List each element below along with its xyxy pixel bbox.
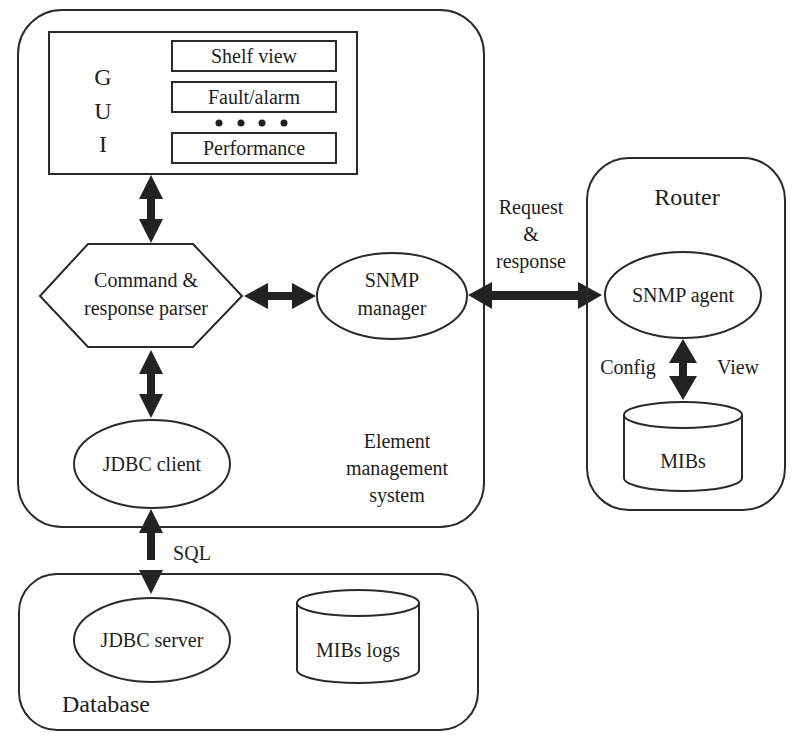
jdbc-server-label: JDBC server <box>101 629 204 651</box>
sql-label: SQL <box>173 542 211 564</box>
parser-line2: response parser <box>84 297 208 320</box>
gui-letter-g: G <box>94 64 111 90</box>
gui-letter-u: U <box>94 98 111 124</box>
mibs-logs-label: MIBs logs <box>316 639 400 662</box>
double-arrow-agent-mibs-icon <box>669 339 697 400</box>
gui-letter-i: I <box>99 131 107 157</box>
jdbc-client: JDBC client <box>74 420 230 508</box>
jdbc-server: JDBC server <box>74 598 230 682</box>
gui-item-label: Performance <box>203 137 305 159</box>
gui-item-performance[interactable]: Performance <box>172 133 336 163</box>
mibs-logs-database-icon: MIBs logs <box>297 590 419 683</box>
ems-label-line3: system <box>369 484 425 507</box>
ems-label-line1: Element <box>364 430 431 452</box>
database-title: Database <box>62 691 150 717</box>
double-arrow-parser-manager-icon <box>244 283 316 309</box>
router-title: Router <box>654 184 719 210</box>
ems-architecture-diagram: G U I Shelf view Fault/alarm Performance… <box>0 0 798 749</box>
gui-item-label: Fault/alarm <box>208 86 301 108</box>
parser-line1: Command & <box>94 269 198 291</box>
request-response-line2: & <box>523 223 539 245</box>
config-label: Config <box>600 356 656 379</box>
double-arrow-parser-jdbc-icon <box>139 350 163 418</box>
gui-more-dots <box>216 120 288 127</box>
gui-item-fault-alarm[interactable]: Fault/alarm <box>172 82 336 112</box>
request-response-line3: response <box>496 250 566 273</box>
gui-item-label: Shelf view <box>211 45 298 67</box>
mibs-database-icon: MIBs <box>624 402 742 491</box>
ems-label-line2: management <box>346 457 449 480</box>
double-arrow-gui-parser-icon <box>139 175 163 243</box>
snmp-manager-line1: SNMP <box>365 269 419 291</box>
double-arrow-manager-agent-icon <box>468 282 602 309</box>
snmp-manager: SNMP manager <box>317 253 467 339</box>
snmp-agent: SNMP agent <box>605 252 761 338</box>
snmp-agent-label: SNMP agent <box>632 284 734 307</box>
request-response-line1: Request <box>499 196 564 219</box>
jdbc-client-label: JDBC client <box>103 453 202 475</box>
view-label: View <box>717 356 760 378</box>
mibs-label: MIBs <box>660 450 706 472</box>
double-arrow-sql-icon <box>139 509 163 594</box>
gui-item-shelf-view[interactable]: Shelf view <box>172 41 336 71</box>
snmp-manager-line2: manager <box>358 297 427 320</box>
command-response-parser: Command & response parser <box>40 244 242 347</box>
